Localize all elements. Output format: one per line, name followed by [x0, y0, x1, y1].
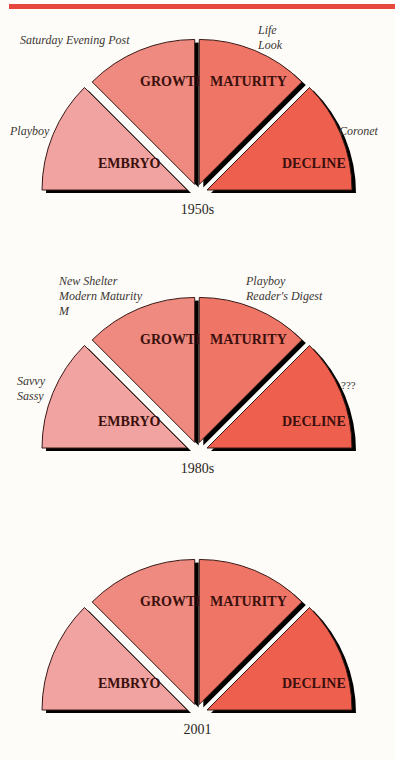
growth-label: GROWTH — [140, 332, 206, 347]
decline-label: DECLINE — [282, 156, 346, 171]
growth-label: GROWTH — [140, 74, 206, 89]
embryo-label: EMBRYO — [98, 414, 161, 429]
annotation-growth: Saturday Evening Post — [20, 33, 130, 48]
annotation-embryo: Savvy Sassy — [17, 374, 45, 404]
embryo-label: EMBRYO — [98, 676, 161, 691]
annotation-decline: ??? — [341, 378, 356, 393]
growth-label: GROWTH — [140, 594, 206, 609]
era-label: 1980s — [0, 461, 395, 477]
lifecycle-semicircle: EMBRYOGROWTHMATURITYDECLINE — [0, 520, 395, 750]
lifecycle-diagram-2001: EMBRYOGROWTHMATURITYDECLINE 2001 — [0, 520, 395, 750]
lifecycle-diagram-1980s: EMBRYOGROWTHMATURITYDECLINE New Shelter … — [0, 258, 395, 488]
lifecycle-diagram-1950s: EMBRYOGROWTHMATURITYDECLINE Saturday Eve… — [0, 0, 395, 230]
maturity-label: MATURITY — [210, 332, 287, 347]
cropped-caption — [95, 756, 295, 760]
annotation-maturity: Playboy Reader's Digest — [246, 274, 322, 304]
maturity-label: MATURITY — [210, 74, 287, 89]
annotation-maturity: Life Look — [258, 23, 282, 53]
era-label: 1950s — [0, 202, 395, 218]
decline-label: DECLINE — [282, 676, 346, 691]
maturity-label: MATURITY — [210, 594, 287, 609]
annotation-growth: New Shelter Modern Maturity M — [59, 274, 142, 319]
era-label: 2001 — [0, 722, 395, 738]
embryo-label: EMBRYO — [98, 156, 161, 171]
annotation-decline: Coronet — [339, 124, 378, 139]
decline-label: DECLINE — [282, 414, 346, 429]
annotation-embryo: Playboy — [10, 124, 49, 139]
